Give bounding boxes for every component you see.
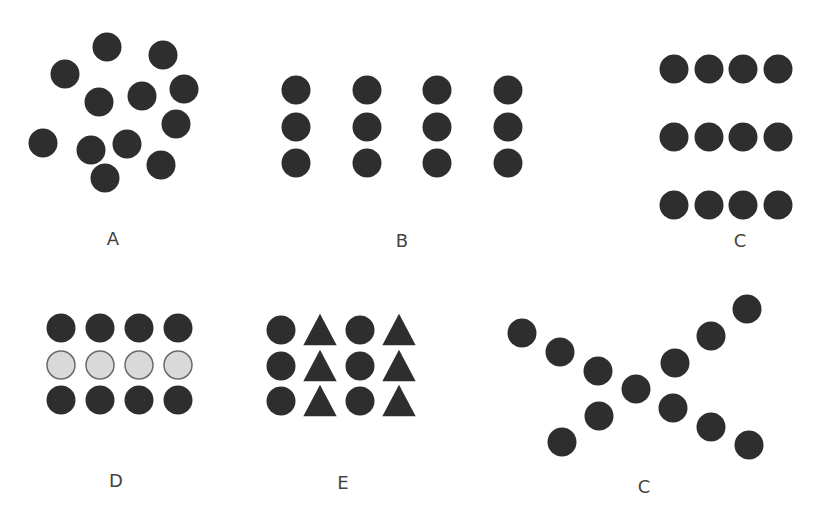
dark-circle [164,314,193,343]
triangle-shape [303,385,336,416]
light-circle [125,351,153,379]
dark-circle [661,349,690,378]
dark-circle [147,151,176,180]
dark-circle [494,76,523,105]
dark-circle [162,110,191,139]
dark-circle [346,352,375,381]
dark-circle [128,82,157,111]
dark-circle [29,129,58,158]
dark-circle [729,191,758,220]
panel-label-b: B [396,230,408,251]
dark-circle [697,413,726,442]
dark-circle [353,149,382,178]
panel-b [282,76,523,178]
dark-circle [86,314,115,343]
panel-label-c-cross: C [638,476,651,497]
dark-circle [660,191,689,220]
dark-circle [695,123,724,152]
dark-circle [282,113,311,142]
dark-circle [729,55,758,84]
dark-circle [423,113,452,142]
panel-label-c-rows: C [734,230,747,251]
dark-circle [346,387,375,416]
dark-circle [764,55,793,84]
dark-circle [423,149,452,178]
dark-circle [353,76,382,105]
dark-circle [267,387,296,416]
dark-circle [548,428,577,457]
dark-circle [125,386,154,415]
dark-circle [695,55,724,84]
dark-circle [51,60,80,89]
dark-circle [494,113,523,142]
dark-circle [125,314,154,343]
panel-c-rows [660,55,793,220]
dark-circle [622,375,651,404]
dark-circle [735,431,764,460]
dark-circle [764,123,793,152]
light-circle [86,351,114,379]
dark-circle [353,113,382,142]
dark-circle [47,386,76,415]
triangle-shape [303,350,336,381]
panel-e [267,314,416,416]
panel-a [29,33,199,193]
panel-d [47,314,193,415]
triangle-shape [382,385,415,416]
dark-circle [508,319,537,348]
dark-circle [77,136,106,165]
panel-label-e: E [337,472,348,493]
dark-circle [170,75,199,104]
dark-circle [282,149,311,178]
dark-circle [267,352,296,381]
dark-circle [584,357,613,386]
triangle-shape [303,314,336,345]
gestalt-figure: A B C D E C [0,0,826,526]
dark-circle [585,402,614,431]
dark-circle [695,191,724,220]
dark-circle [764,191,793,220]
dark-circle [91,164,120,193]
dark-circle [733,295,762,324]
dark-circle [149,41,178,70]
light-circle [47,351,75,379]
dark-circle [164,386,193,415]
panel-c-cross [508,295,764,460]
dark-circle [93,33,122,62]
panel-label-d: D [109,470,123,491]
dark-circle [47,314,76,343]
dark-circle [267,316,296,345]
dark-circle [282,76,311,105]
panel-label-a: A [107,228,119,249]
dark-circle [729,123,758,152]
dark-circle [546,338,575,367]
dark-circle [85,88,114,117]
light-circle [164,351,192,379]
dark-circle [346,316,375,345]
dark-circle [660,123,689,152]
dark-circle [423,76,452,105]
dark-circle [697,322,726,351]
dark-circle [660,55,689,84]
dark-circle [86,386,115,415]
triangle-shape [382,350,415,381]
dark-circle [494,149,523,178]
triangle-shape [382,314,415,345]
shapes-canvas [0,0,826,526]
dark-circle [659,394,688,423]
dark-circle [113,130,142,159]
